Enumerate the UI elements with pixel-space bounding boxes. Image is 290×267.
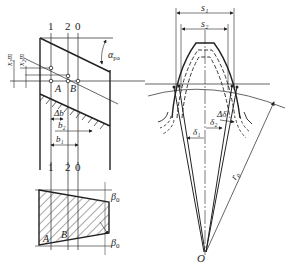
gear-tooth-diagram: 1 2 0 A B x₁m x₂m αpa Δb b₂ b₁ 1 2 0 A B… bbox=[0, 0, 290, 267]
s1-label: s₁ bbox=[201, 2, 208, 13]
plan-mark-2: 2 bbox=[65, 161, 71, 173]
x1m-label: x₁m bbox=[5, 54, 14, 67]
delta-s-label: Δδ bbox=[216, 109, 227, 119]
section-mark-2: 2 bbox=[65, 20, 71, 32]
alpha-pa-label: αpa bbox=[108, 49, 121, 62]
x2m-label: x₂m bbox=[17, 54, 26, 67]
section-mark-0: 0 bbox=[75, 20, 81, 32]
plan-point-b: B bbox=[61, 229, 67, 240]
beta0-bottom-label: β0 bbox=[110, 237, 120, 250]
section-mark-1: 1 bbox=[48, 20, 54, 32]
delta-b-label: Δb bbox=[53, 108, 64, 118]
tooth-plan-view: 1 2 0 A B β0 β0 bbox=[35, 161, 120, 255]
r0-label: r₀ bbox=[228, 169, 241, 181]
origin-o-label: O bbox=[197, 252, 205, 264]
beta0-top-label: β0 bbox=[110, 191, 120, 204]
point-b-label: B bbox=[70, 83, 76, 94]
point-a-label: A bbox=[54, 83, 62, 94]
plan-mark-1: 1 bbox=[48, 161, 54, 173]
delta1-label: δ₁ bbox=[193, 127, 200, 137]
b2-label: b₂ bbox=[58, 120, 66, 130]
plan-mark-0: 0 bbox=[75, 161, 81, 173]
rack-section-view: 1 2 0 A B x₁m x₂m αpa Δb b₂ b₁ bbox=[5, 20, 145, 170]
plan-point-a: A bbox=[42, 233, 50, 244]
b1-label: b₁ bbox=[56, 134, 64, 144]
s2-label: s₂ bbox=[201, 18, 209, 29]
gear-tooth-profile-view: s₁ s₂ δ₁ δ₂ Δδ r₀ bbox=[145, 2, 285, 264]
